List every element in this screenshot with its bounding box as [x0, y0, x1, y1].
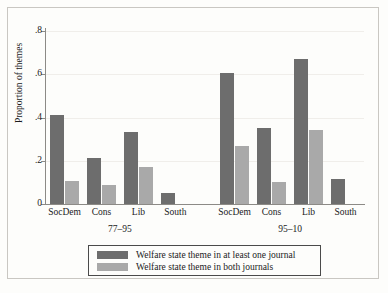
gridline — [46, 31, 364, 32]
legend-item: Welfare state theme in both journals — [97, 261, 320, 273]
bar-series-one — [87, 158, 101, 204]
bar-series-two — [309, 130, 323, 204]
chart-figure: Proportion of themes 0.2.4.6.8 SocDemCon… — [0, 0, 388, 293]
bar-series-one — [161, 193, 175, 204]
x-axis-line — [45, 204, 365, 205]
legend-item: Welfare state theme in at least one jour… — [97, 249, 320, 261]
x-category-label: South — [316, 207, 376, 218]
bar-series-two — [272, 182, 286, 204]
y-tick-label: .6 — [20, 69, 42, 79]
legend-label: Welfare state theme in at least one jour… — [136, 250, 295, 261]
bar-series-two — [102, 185, 116, 204]
y-tick: .4 — [0, 113, 42, 123]
bar-series-one — [257, 128, 271, 204]
bar-series-one — [294, 59, 308, 204]
y-tick-label: .2 — [20, 156, 42, 166]
bar-series-one — [220, 73, 234, 204]
bar-series-one — [50, 115, 64, 204]
legend-swatch-icon — [97, 263, 128, 271]
y-tick: .2 — [0, 156, 42, 166]
bar-series-two — [139, 167, 153, 204]
gridline — [46, 74, 364, 75]
x-group-label: 95–10 — [250, 224, 330, 235]
x-group-label: 77–95 — [80, 224, 160, 235]
chart-legend: Welfare state theme in at least one jour… — [88, 245, 321, 276]
bar-series-two — [235, 146, 249, 204]
x-category-label: South — [145, 207, 205, 218]
gridline — [46, 118, 364, 119]
y-tick-label: .8 — [20, 26, 42, 36]
bar-series-one — [331, 179, 345, 204]
bar-series-one — [124, 132, 138, 204]
y-tick-label: .4 — [20, 113, 42, 123]
y-tick: .8 — [0, 26, 42, 36]
y-axis-title: Proportion of themes — [14, 23, 24, 143]
legend-swatch-icon — [97, 251, 128, 259]
legend-label: Welfare state theme in both journals — [136, 262, 273, 273]
bar-series-two — [65, 181, 79, 204]
plot-area — [46, 31, 364, 204]
y-tick: .6 — [0, 69, 42, 79]
